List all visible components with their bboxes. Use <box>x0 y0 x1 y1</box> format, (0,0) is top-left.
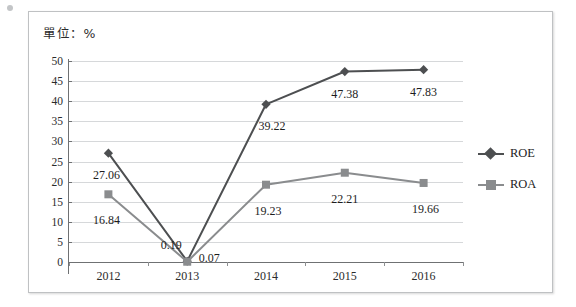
y-tick-mark-30 <box>68 141 72 142</box>
data-label-roa-2015: 22.21 <box>331 191 358 206</box>
y-tick-mark-35 <box>68 121 72 122</box>
plot-wrapper: 50454035302520151050 2012201320142015201… <box>29 12 554 294</box>
data-point-roe-2015[interactable] <box>340 67 349 76</box>
x-tick-label-2015: 2015 <box>333 269 357 284</box>
data-point-roe-2016[interactable] <box>419 65 428 74</box>
y-tick-mark-25 <box>68 162 72 163</box>
y-tick-mark-20 <box>68 182 72 183</box>
data-point-roa-2013[interactable] <box>183 258 191 266</box>
data-label-roa-2016: 19.66 <box>412 201 439 216</box>
legend-item-roe[interactable]: ROE <box>478 138 548 169</box>
x-tick-label-2016: 2016 <box>412 269 436 284</box>
y-tick-mark-15 <box>68 202 72 203</box>
series-layer <box>29 12 554 294</box>
chart-legend: ROE ROA <box>478 138 548 200</box>
x-tick-label-2014: 2014 <box>254 269 278 284</box>
data-label-roa-2012: 16.84 <box>93 213 120 228</box>
scan-artifact-dot <box>7 5 13 11</box>
legend-label-roe: ROE <box>510 146 535 161</box>
data-label-roa-2013: 0.07 <box>199 250 220 265</box>
y-tick-mark-40 <box>68 101 72 102</box>
y-tick-mark-50 <box>68 61 72 62</box>
y-tick-mark-10 <box>68 222 72 223</box>
x-tick-label-2012: 2012 <box>96 269 120 284</box>
roe-marker-icon <box>478 148 504 160</box>
data-label-roe-2015: 47.38 <box>331 86 358 101</box>
roa-marker-icon <box>478 179 504 191</box>
data-label-roe-2012: 27.06 <box>93 168 120 183</box>
data-label-roe-2013: 0.19 <box>161 238 182 253</box>
data-label-roe-2016: 47.83 <box>410 84 437 99</box>
legend-item-roa[interactable]: ROA <box>478 169 548 200</box>
data-point-roa-2016[interactable] <box>420 179 428 187</box>
chart-frame: 單位：% 50454035302520151050 20122013201420… <box>28 11 553 293</box>
data-point-roa-2015[interactable] <box>341 169 349 177</box>
legend-label-roa: ROA <box>510 177 536 192</box>
y-tick-mark-0 <box>68 262 72 263</box>
data-label-roa-2014: 19.23 <box>255 203 282 218</box>
y-tick-mark-45 <box>68 81 72 82</box>
data-label-roe-2014: 39.22 <box>259 119 286 134</box>
data-point-roa-2014[interactable] <box>262 181 270 189</box>
series-line-roe <box>108 70 423 262</box>
y-tick-mark-5 <box>68 242 72 243</box>
data-point-roe-2014[interactable] <box>261 100 270 109</box>
data-point-roa-2012[interactable] <box>104 190 112 198</box>
x-tick-label-2013: 2013 <box>175 269 199 284</box>
